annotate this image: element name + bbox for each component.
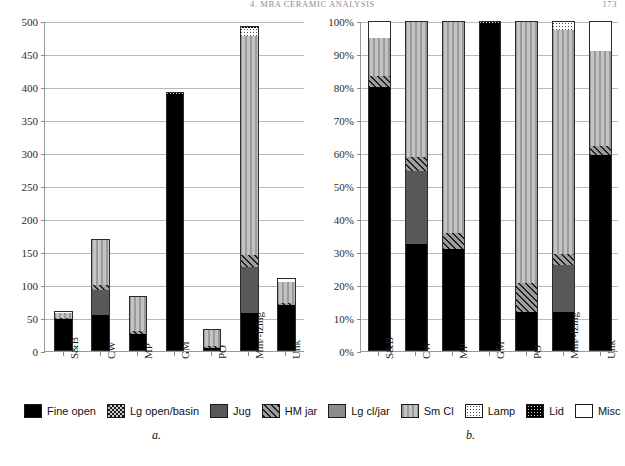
bar-segment-sm-cl bbox=[240, 36, 259, 256]
bar-b-mp bbox=[442, 21, 465, 351]
x-tick-a-4 bbox=[211, 352, 212, 356]
x-tick-a-6 bbox=[285, 352, 286, 356]
x-axis-label-a-po: PO bbox=[216, 345, 228, 359]
bar-segment-misc bbox=[368, 21, 391, 38]
bar-segment-fine-open bbox=[442, 249, 465, 351]
x-tick-b-3 bbox=[489, 352, 490, 356]
bar-segment-lamp bbox=[552, 22, 575, 30]
y-tick-label-b-60: 60% bbox=[316, 148, 354, 160]
legend-item-misc: Misc bbox=[575, 404, 621, 418]
legend-label-sm-cl: Sm Cl bbox=[424, 405, 454, 417]
caption-a: a. bbox=[152, 428, 161, 443]
legend-swatch-fine-open bbox=[24, 404, 42, 418]
x-tick-b-0 bbox=[378, 352, 379, 356]
bar-group-a bbox=[45, 22, 304, 351]
y-tick-label-a-200: 200 bbox=[0, 214, 38, 226]
legend-swatch-lg-open-basin bbox=[107, 404, 125, 418]
y-tick-label-b-80: 80% bbox=[316, 82, 354, 94]
y-tick-label-b-100: 100% bbox=[316, 16, 354, 28]
bar-segment-sm-cl bbox=[277, 282, 296, 303]
x-axis-label-b-minizing: Min/-izing bbox=[568, 312, 580, 359]
bar-segment-sm-cl bbox=[203, 329, 222, 347]
bar-segment-hm-jar bbox=[589, 146, 612, 155]
legend-item-jug: Jug bbox=[210, 404, 251, 418]
bar-segment-lamp bbox=[240, 28, 259, 36]
legend-item-fine-open: Fine open bbox=[24, 404, 96, 418]
chart-b-percentages: S&BCWMPGMPOMin/-izingUnk 0%10%20%30%40%5… bbox=[313, 14, 625, 404]
y-tick-label-a-450: 450 bbox=[0, 49, 38, 61]
bar-group-b bbox=[361, 22, 618, 351]
legend-item-lid: Lid bbox=[526, 404, 564, 418]
bar-segment-fine-open bbox=[479, 23, 502, 351]
bar-segment-fine-open bbox=[589, 155, 612, 351]
legend-item-lg-cl-jar: Lg cl/jar bbox=[328, 404, 390, 418]
x-tick-b-1 bbox=[415, 352, 416, 356]
x-axis-label-a-unk: Unk bbox=[290, 340, 302, 359]
bar-segment-hm-jar bbox=[515, 283, 538, 312]
chart-legend: Fine openLg open/basinJugHM jarLg cl/jar… bbox=[24, 401, 609, 421]
legend-swatch-lg-cl-jar bbox=[328, 404, 346, 418]
y-tick-label-a-250: 250 bbox=[0, 181, 38, 193]
y-tick-label-b-20: 20% bbox=[316, 280, 354, 292]
y-tick-label-b-50: 50% bbox=[316, 181, 354, 193]
y-tick-mark-b-0 bbox=[357, 352, 361, 353]
y-tick-mark-a-0 bbox=[41, 352, 45, 353]
bar-segment-jug bbox=[91, 290, 110, 315]
legend-item-hm-jar: HM jar bbox=[262, 404, 317, 418]
x-axis-label-a-cw: CW bbox=[105, 341, 117, 359]
legend-label-lg-cl-jar: Lg cl/jar bbox=[351, 405, 390, 417]
bar-b-cw bbox=[405, 21, 428, 351]
y-tick-label-a-300: 300 bbox=[0, 148, 38, 160]
bar-segment-fine-open bbox=[368, 87, 391, 351]
x-axis-label-a-gm: GM bbox=[179, 341, 191, 359]
y-tick-label-a-350: 350 bbox=[0, 115, 38, 127]
running-title: 4. MBA CERAMIC ANALYSIS bbox=[0, 0, 625, 9]
bar-segment-sm-cl bbox=[552, 30, 575, 253]
bar-a-minizing bbox=[240, 26, 259, 351]
page-number: 173 bbox=[602, 0, 617, 9]
y-tick-label-a-500: 500 bbox=[0, 16, 38, 28]
legend-swatch-sm-cl bbox=[401, 404, 419, 418]
bar-segment-misc bbox=[589, 21, 612, 51]
bar-segment-sm-cl bbox=[368, 38, 391, 77]
x-axis-label-b-sb: S&B bbox=[383, 337, 395, 359]
legend-label-fine-open: Fine open bbox=[47, 405, 96, 417]
legend-swatch-lamp bbox=[465, 404, 483, 418]
bar-segment-hm-jar bbox=[442, 233, 465, 249]
x-tick-a-5 bbox=[248, 352, 249, 356]
legend-swatch-misc bbox=[575, 404, 593, 418]
bar-a-gm bbox=[166, 92, 185, 351]
y-tick-label-b-0: 0% bbox=[316, 346, 354, 358]
y-tick-label-a-150: 150 bbox=[0, 247, 38, 259]
bar-b-gm bbox=[479, 21, 502, 351]
x-axis-label-b-gm: GM bbox=[494, 341, 506, 359]
chart-a-absolute-counts: S&BCWMPGMPOMin/-izingUnk 050100150200250… bbox=[0, 14, 312, 404]
x-tick-b-2 bbox=[452, 352, 453, 356]
bar-segment-sm-cl bbox=[405, 21, 428, 157]
y-tick-label-b-30: 30% bbox=[316, 247, 354, 259]
caption-b: b. bbox=[466, 428, 475, 443]
legend-item-sm-cl: Sm Cl bbox=[401, 404, 454, 418]
bar-segment-sm-cl bbox=[515, 21, 538, 283]
bar-segment-hm-jar bbox=[240, 255, 259, 266]
x-axis-label-a-minizing: Min/-izing bbox=[253, 312, 265, 359]
bar-segment-jug bbox=[240, 267, 259, 313]
bar-segment-hm-jar bbox=[552, 254, 575, 266]
x-axis-label-a-mp: MP bbox=[142, 343, 154, 359]
bar-b-minizing bbox=[552, 21, 575, 351]
legend-swatch-lid bbox=[526, 404, 544, 418]
plot-area-b bbox=[360, 22, 618, 352]
y-tick-label-b-70: 70% bbox=[316, 115, 354, 127]
x-axis-label-a-sb: S&B bbox=[68, 337, 80, 359]
y-tick-label-a-100: 100 bbox=[0, 280, 38, 292]
bar-b-unk bbox=[589, 21, 612, 351]
legend-label-lamp: Lamp bbox=[488, 405, 516, 417]
bar-a-cw bbox=[91, 239, 110, 351]
bar-segment-sm-cl bbox=[91, 239, 110, 285]
bar-segment-sm-cl bbox=[589, 51, 612, 146]
bar-b-po bbox=[515, 21, 538, 351]
x-axis-label-b-unk: Unk bbox=[605, 340, 617, 359]
y-tick-label-a-0: 0 bbox=[0, 346, 38, 358]
bar-segment-hm-jar bbox=[405, 157, 428, 171]
y-tick-label-b-90: 90% bbox=[316, 49, 354, 61]
